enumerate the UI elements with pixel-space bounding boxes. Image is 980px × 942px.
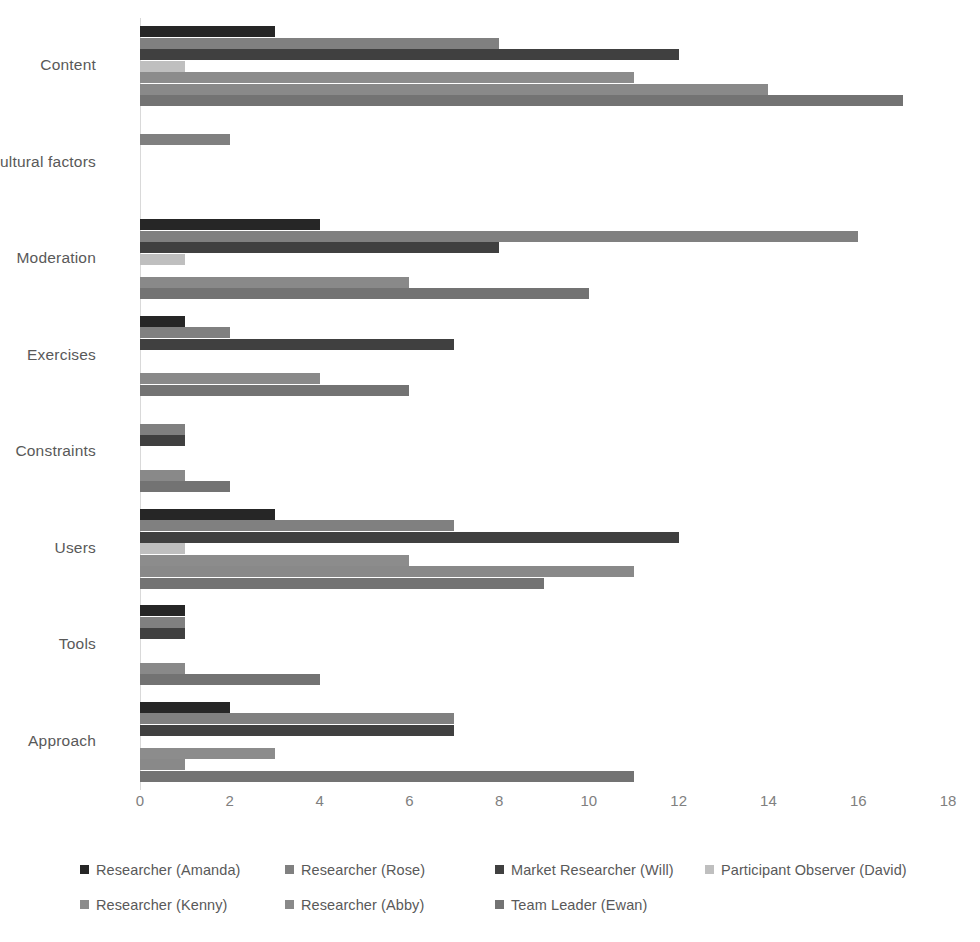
bar-row [140,748,948,759]
bar-approach-series-0[interactable] [140,702,230,713]
category-label-tools: Tools [0,635,96,653]
bar-exercises-series-1[interactable] [140,327,230,338]
legend-label: Researcher (Abby) [301,897,424,913]
bar-exercises-series-5[interactable] [140,373,320,384]
legend-item[interactable]: Researcher (Kenny) [80,897,228,913]
bar-row [140,640,948,651]
bar-tools-series-0[interactable] [140,605,185,616]
bar-moderation-series-0[interactable] [140,219,320,230]
bar-tools-series-5[interactable] [140,663,185,674]
legend-swatch-icon [80,865,89,874]
legend-label: Market Researcher (Will) [511,862,674,878]
legend-swatch-icon [705,865,714,874]
bar-chart: ContentCultural factorsModerationExercis… [0,0,980,942]
bar-cultural-factors-series-1[interactable] [140,134,230,145]
bar-content-series-3[interactable] [140,61,185,72]
bar-row [140,49,948,60]
x-tick-label: 6 [389,792,429,809]
bar-content-series-4[interactable] [140,72,634,83]
legend-item[interactable]: Researcher (Rose) [285,862,425,878]
legend-item[interactable]: Researcher (Amanda) [80,862,241,878]
bar-users-series-1[interactable] [140,520,454,531]
category-label-users: Users [0,539,96,557]
bar-content-series-1[interactable] [140,38,499,49]
x-tick-label: 10 [569,792,609,809]
bar-row [140,736,948,747]
bar-row [140,725,948,736]
category-group: Content [140,18,948,115]
bar-tools-series-2[interactable] [140,628,185,639]
bar-row [140,192,948,203]
bar-row [140,520,948,531]
bar-content-series-5[interactable] [140,84,768,95]
bar-row [140,713,948,724]
bar-moderation-series-6[interactable] [140,288,589,299]
bar-row [140,123,948,134]
bar-constraints-series-2[interactable] [140,435,185,446]
legend-item[interactable]: Team Leader (Ewan) [495,897,647,913]
legend-row: Researcher (Kenny)Researcher (Abby)Team … [80,887,960,922]
bar-row [140,617,948,628]
bar-row [140,254,948,265]
legend-swatch-icon [285,900,294,909]
bar-row [140,61,948,72]
bar-row [140,157,948,168]
bar-content-series-2[interactable] [140,49,679,60]
bar-users-series-4[interactable] [140,555,409,566]
bar-constraints-series-1[interactable] [140,424,185,435]
legend-item[interactable]: Market Researcher (Will) [495,862,674,878]
legend-item[interactable]: Researcher (Abby) [285,897,424,913]
bar-constraints-series-5[interactable] [140,470,185,481]
bar-users-series-0[interactable] [140,509,275,520]
bar-row [140,702,948,713]
bar-row [140,146,948,157]
bar-users-series-2[interactable] [140,532,679,543]
bar-row [140,231,948,242]
bar-tools-series-1[interactable] [140,617,185,628]
bar-users-series-6[interactable] [140,578,544,589]
legend-label: Researcher (Rose) [301,862,425,878]
bar-moderation-series-5[interactable] [140,277,409,288]
bar-moderation-series-1[interactable] [140,231,858,242]
bar-users-series-5[interactable] [140,566,634,577]
bar-approach-series-2[interactable] [140,725,454,736]
bar-exercises-series-6[interactable] [140,385,409,396]
bar-moderation-series-3[interactable] [140,254,185,265]
bar-row [140,674,948,685]
bar-constraints-series-6[interactable] [140,481,230,492]
bar-content-series-0[interactable] [140,26,275,37]
x-tick-label: 12 [659,792,699,809]
x-tick-label: 0 [120,792,160,809]
bar-row [140,134,948,145]
legend-swatch-icon [285,865,294,874]
bar-row [140,651,948,662]
legend-item[interactable]: Participant Observer (David) [705,862,907,878]
bar-exercises-series-2[interactable] [140,339,454,350]
x-tick-label: 2 [210,792,250,809]
bar-approach-series-5[interactable] [140,759,185,770]
legend-row: Researcher (Amanda)Researcher (Rose)Mark… [80,852,960,887]
bar-row [140,265,948,276]
bar-row [140,509,948,520]
category-label-exercises: Exercises [0,346,96,364]
category-group: Constraints [140,404,948,501]
bar-users-series-3[interactable] [140,543,185,554]
x-tick-label: 8 [479,792,519,809]
bar-row [140,242,948,253]
bar-approach-series-4[interactable] [140,748,275,759]
bar-row [140,424,948,435]
bar-approach-series-1[interactable] [140,713,454,724]
bar-row [140,316,948,327]
bar-row [140,532,948,543]
x-tick-label: 14 [748,792,788,809]
bar-row [140,84,948,95]
bar-approach-series-6[interactable] [140,771,634,782]
bar-row [140,350,948,361]
bar-moderation-series-2[interactable] [140,242,499,253]
category-group: Approach [140,694,948,791]
bar-tools-series-6[interactable] [140,674,320,685]
plot-area: ContentCultural factorsModerationExercis… [140,18,948,790]
bar-content-series-6[interactable] [140,95,903,106]
bar-exercises-series-0[interactable] [140,316,185,327]
category-label-moderation: Moderation [0,249,96,267]
